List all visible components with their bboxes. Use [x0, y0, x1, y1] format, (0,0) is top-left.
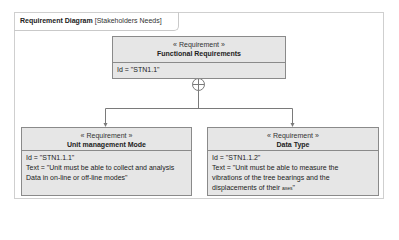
requirement-functional-requirements[interactable]: « Requirement » Functional Requirements … — [112, 36, 286, 79]
requirement-title: Functional Requirements — [113, 49, 285, 59]
text-property-line: displacements of their axes" — [212, 183, 374, 193]
requirement-properties: Id = "STN1.1" — [113, 63, 285, 77]
requirement-title: Unit management Mode — [22, 140, 191, 150]
text-property-line: vibrations of the tree bearings and the — [212, 173, 374, 183]
id-property: Id = "STN1.1.1" — [26, 153, 187, 163]
text-property-line: Text = "Unit must be able to measure the — [212, 163, 374, 173]
requirement-header: « Requirement » Unit management Mode — [22, 128, 191, 151]
text-property-line: Text = "Unit must be able to collect and… — [26, 163, 187, 173]
text-fragment: displacements of their — [212, 184, 282, 191]
requirement-properties: Id = "STN1.1.1" Text = "Unit must be abl… — [22, 151, 191, 185]
text-property-line: Data in on-line or off-line modes" — [26, 173, 187, 183]
requirement-title: Data Type — [208, 140, 378, 150]
requirement-properties: Id = "STN1.1.2" Text = "Unit must be abl… — [208, 151, 378, 195]
requirement-header: « Requirement » Functional Requirements — [113, 37, 285, 63]
id-property: Id = "STN1.1" — [117, 65, 281, 75]
text-fragment: " — [293, 184, 296, 191]
id-property: Id = "STN1.1.2" — [212, 153, 374, 163]
stereotype-label: « Requirement » — [208, 131, 378, 140]
stereotype-label: « Requirement » — [113, 40, 285, 49]
requirement-header: « Requirement » Data Type — [208, 128, 378, 151]
requirement-data-type[interactable]: « Requirement » Data Type Id = "STN1.1.2… — [207, 127, 379, 196]
stereotype-label: « Requirement » — [22, 131, 191, 140]
text-fragment-small: axes — [282, 185, 293, 191]
requirement-unit-management-mode[interactable]: « Requirement » Unit management Mode Id … — [21, 127, 192, 196]
